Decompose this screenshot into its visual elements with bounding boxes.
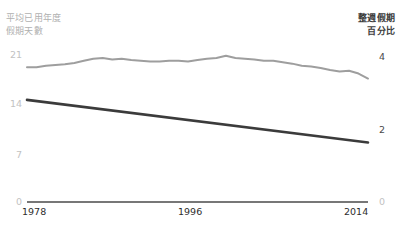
vacation-days-dual-axis-chart: 平均已用年度 假期天數 整週假期 百分比 21 14 7 0 4 2 0 197… bbox=[0, 0, 402, 239]
plot-area bbox=[0, 0, 402, 239]
series-line-vacation-days bbox=[27, 56, 368, 79]
series-line-full-week-pct bbox=[27, 100, 368, 143]
